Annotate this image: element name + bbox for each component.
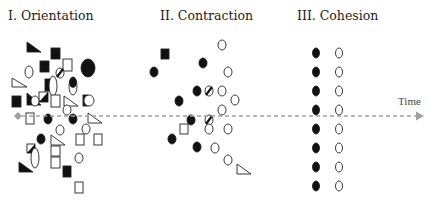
axis-start-diamond-icon <box>14 112 22 120</box>
time-axis <box>0 0 437 203</box>
group-development-diagram: I. Orientation II. Contraction III. Cohe… <box>0 0 437 203</box>
axis-arrowhead-icon <box>416 112 424 121</box>
time-axis-label: Time <box>398 95 421 107</box>
